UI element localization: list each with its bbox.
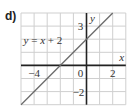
equation-annotation: y = x + 2 [23,34,63,46]
y-tick-label: 3 [78,20,84,32]
x-tick-label: 2 [110,67,116,79]
line-graph: xy−4023−2y = x + 2 [0,0,132,109]
y-axis-label: y [89,12,95,24]
y-tick-label: −2 [73,86,85,98]
x-tick-label: −4 [28,67,40,79]
x-tick-label: 0 [78,67,84,79]
series-line [21,13,113,105]
x-axis-label: x [118,51,124,63]
